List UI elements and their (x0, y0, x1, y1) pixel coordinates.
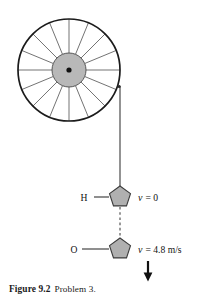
spoke (76, 23, 89, 55)
pulley-wheel (18, 19, 120, 121)
caption-label: Figure 9.2 (9, 284, 50, 294)
figure-diagram: H v = 0 O v = 4.8 m/s (0, 0, 207, 306)
label-o: O (71, 244, 78, 255)
spoke (85, 76, 116, 89)
mass-polygon-o (110, 238, 131, 258)
spoke (33, 82, 57, 106)
physics-figure: H v = 0 O v = 4.8 m/s Figure 9.2Problem … (0, 0, 207, 306)
spoke (76, 86, 89, 118)
mass-upper: H v = 0 (81, 186, 159, 206)
spoke (49, 23, 62, 55)
label-velocity-value-h: = 0 (146, 192, 159, 203)
mass-lower: O v = 4.8 m/s (71, 238, 182, 258)
label-h: H (81, 192, 88, 203)
mass-polygon-h (110, 186, 131, 206)
label-velocity-value-o: = 4.8 m/s (146, 244, 182, 255)
spoke (85, 50, 116, 63)
spoke (81, 34, 105, 58)
cord (118, 85, 121, 190)
spoke (33, 34, 57, 58)
velocity-arrow (144, 261, 153, 282)
figure-caption: Figure 9.2Problem 3. (9, 283, 96, 295)
spoke (22, 50, 53, 63)
spoke (49, 86, 62, 118)
spoke (22, 76, 53, 89)
label-velocity-symbol-o: v (138, 244, 143, 255)
label-velocity-symbol-h: v (138, 192, 143, 203)
spoke (81, 82, 105, 106)
axle-dot (66, 67, 71, 72)
arrow-head (144, 273, 153, 282)
caption-text: Problem 3. (54, 284, 95, 294)
